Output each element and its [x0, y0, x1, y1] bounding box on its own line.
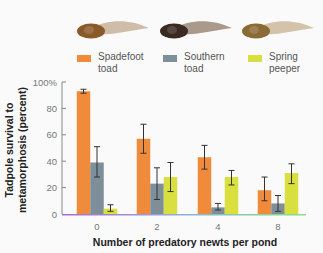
legend-item-southern-toad: Southern toad	[163, 51, 225, 75]
y-axis-label-line-2: metamorphosis (percent)	[16, 86, 29, 214]
spring-peeper-tadpole	[242, 21, 314, 38]
x-tick-label: 8	[275, 221, 280, 232]
tadpole-highlight	[167, 26, 177, 34]
legend-label: Spadefoot toad	[98, 51, 144, 75]
tadpole-highlight	[249, 26, 259, 34]
legend-label: Southern toad	[184, 51, 225, 75]
x-tick-label: 0	[94, 221, 99, 232]
y-axis-label: Tadpole survival to metamorphosis (perce…	[3, 86, 29, 214]
legend-swatch-peeper	[248, 55, 262, 62]
southern-toad-tadpole	[160, 21, 232, 38]
x-tick-label: 2	[154, 221, 159, 232]
y-axis-label-line-1: Tadpole survival to	[3, 86, 16, 214]
x-axis-baseline	[62, 214, 306, 216]
y-tick-label: 60	[46, 129, 57, 140]
x-axis-label: Number of predatory newts per pond	[60, 236, 310, 248]
y-tick-label: 20	[46, 182, 57, 193]
tadpole-highlight	[84, 26, 94, 34]
y-tick-label: 0	[52, 209, 57, 220]
y-tick-label: 80	[46, 103, 57, 114]
spadefoot-toad-tadpole	[77, 21, 149, 38]
bar-chart: 020406080100% 0248	[0, 0, 323, 253]
y-tick-label: 100%	[33, 77, 58, 88]
bars	[77, 91, 299, 214]
x-tick-label: 4	[215, 221, 220, 232]
legend-swatch-spadefoot	[77, 55, 91, 62]
legend-swatch-southern	[163, 55, 177, 62]
tadpole-illustrations	[77, 21, 314, 38]
bar	[77, 91, 91, 214]
y-tick-label: 40	[46, 156, 57, 167]
x-tick-labels: 0248	[94, 221, 280, 232]
legend-item-spring-peeper: Spring peeper	[248, 51, 300, 75]
legend-label: Spring peeper	[269, 51, 300, 75]
legend-item-spadefoot-toad: Spadefoot toad	[77, 51, 144, 75]
